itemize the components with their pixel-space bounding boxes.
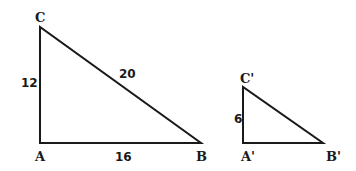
side-a-prime-c-prime-length: 6 xyxy=(234,112,242,126)
vertex-b-label: B xyxy=(196,149,207,164)
side-ab-length: 16 xyxy=(115,150,132,164)
vertex-b-prime-label: B' xyxy=(326,149,341,164)
side-ac-length: 12 xyxy=(21,76,38,90)
triangle-abc xyxy=(40,27,201,143)
triangle-a-prime-b-prime-c-prime xyxy=(243,87,323,143)
vertex-a-prime-label: A' xyxy=(240,149,255,164)
similar-triangles-diagram: C A B 12 16 20 C' A' B' 6 xyxy=(0,0,356,171)
side-bc-length: 20 xyxy=(119,67,136,81)
vertex-c-label: C xyxy=(35,10,45,25)
vertex-c-prime-label: C' xyxy=(240,71,254,86)
vertex-a-label: A xyxy=(34,149,46,164)
